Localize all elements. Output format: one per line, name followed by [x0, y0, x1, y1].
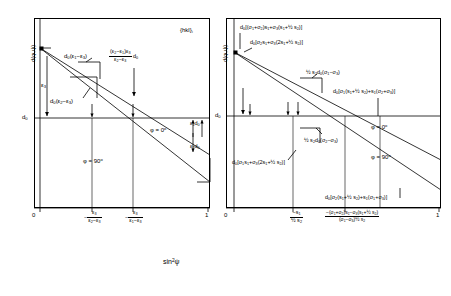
- right-top-formula-1: d0[(σ1+σ2)s1+σ3(s1+½ s2)]: [240, 25, 302, 32]
- fraction-numerator: ε3: [87, 210, 101, 217]
- fraction-denominator: ε1−ε3: [128, 217, 142, 225]
- fraction-stack: (ε2−ε1)ε3 ε2−ε3: [109, 49, 132, 64]
- fraction-denominator: ½ s2: [290, 217, 303, 225]
- right-slope-23-label: ½ s2d0(σ2−σ3): [304, 138, 338, 145]
- left-eps1d0-label: ε1d0: [190, 121, 200, 128]
- right-formula-bottom-left: d0[σ1s1+σ3(2s1+½ s2)]: [232, 160, 285, 167]
- fraction-numerator: ε3: [128, 210, 142, 217]
- left-corner-tag: {hkl}i: [180, 27, 193, 34]
- left-phi-0-label: φ = 0o: [150, 127, 166, 133]
- fraction-stack: ε3 ε2−ε3: [87, 210, 101, 225]
- left-eps3-label: ε3: [41, 82, 46, 89]
- fraction-stack: ε3 ε1−ε3: [128, 210, 142, 225]
- x-axis-title: sin2ψ: [163, 258, 180, 265]
- right-slope-13-label: ½ s2d0(σ1−σ3): [306, 70, 340, 77]
- right-y-axis-label: d(φ,ψ): [222, 45, 228, 62]
- right-xtick-label-3: 1: [436, 212, 439, 218]
- left-xtick-label-0: 0: [32, 212, 35, 218]
- left-panel-frame: [34, 18, 210, 208]
- fraction-denominator: ε2−ε3: [87, 217, 101, 225]
- left-d0-tick-label: d0: [22, 114, 28, 121]
- fraction-numerator: (ε2−ε1)ε3: [109, 49, 132, 56]
- figure-root: d(φ,ψ) {hkl}i d0 ε3 d0(ε1−ε3) d0(ε2−ε3) …: [0, 0, 451, 296]
- right-xtick-label-1: −s1 ½ s2: [290, 210, 303, 225]
- fraction-numerator: −s1: [290, 210, 303, 217]
- right-phi-0-label: φ = 0o: [371, 124, 387, 130]
- left-eps2d0-label: ε2d0: [190, 144, 200, 151]
- left-xtick-label-1: − ε3 ε2−ε3: [84, 210, 102, 225]
- left-phi-90-label: φ = 90o: [83, 158, 103, 164]
- left-xtick-label-2: − ε3 ε1−ε3: [125, 210, 143, 225]
- left-slope-lower-label: d0(ε2−ε3): [50, 98, 73, 105]
- right-top-formula-2: d0[σ2s1+σ3(2s1+½ s2)]: [250, 40, 303, 47]
- fraction-stack: −s1 ½ s2: [290, 210, 303, 225]
- fraction-trailing-d0: d0: [132, 53, 139, 59]
- fraction-denominator: ε2−ε3: [109, 56, 132, 64]
- left-xtick-label-3: 1: [205, 212, 208, 218]
- right-formula-lower: d0[σ2(s1+½ s2)+s1(σ1+σ3)]: [325, 195, 387, 202]
- right-xtick-label-2: −(σ1+σ2)s1−σ3(s1+½ s2) (σ1−σ3)½ s2: [325, 210, 379, 224]
- fraction-denominator: (σ1−σ3)½ s2: [325, 216, 379, 223]
- left-intercept-fraction-label: (ε2−ε1)ε3 ε2−ε3 d0: [109, 49, 138, 64]
- left-slope-upper-label: d0(ε1−ε3): [64, 53, 87, 60]
- right-xtick-label-0: 0: [224, 212, 227, 218]
- right-d0-tick-label: d0: [215, 112, 221, 119]
- left-y-axis-label: d(φ,ψ): [30, 45, 36, 62]
- fraction-stack: −(σ1+σ2)s1−σ3(s1+½ s2) (σ1−σ3)½ s2: [325, 210, 379, 224]
- right-phi-90-label: φ = 90o: [371, 154, 391, 160]
- right-formula-upper: d0[σ1(s1+½ s2)+s1(σ2+σ3)]: [333, 89, 395, 96]
